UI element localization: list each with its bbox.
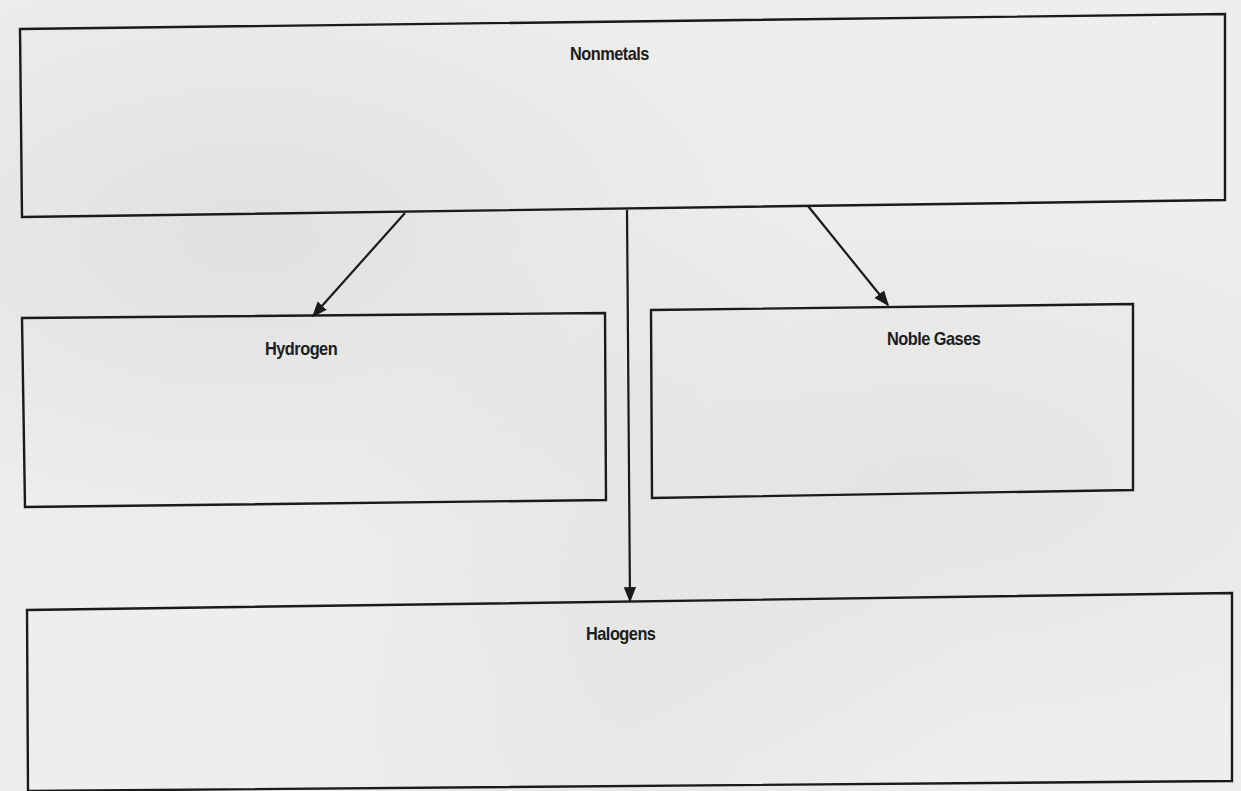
- nonmetals-label: Nonmetals: [570, 44, 649, 63]
- arrow-nonmetals-to-hydrogen: [313, 213, 405, 316]
- arrow-nonmetals-to-noble-gases: [808, 206, 888, 305]
- arrow-nonmetals-to-halogens: [627, 210, 630, 601]
- halogens-label: Halogens: [586, 624, 655, 643]
- concept-map-diagram: [0, 0, 1241, 791]
- noble-gases-label: Noble Gases: [887, 329, 980, 348]
- hydrogen-label: Hydrogen: [265, 339, 337, 358]
